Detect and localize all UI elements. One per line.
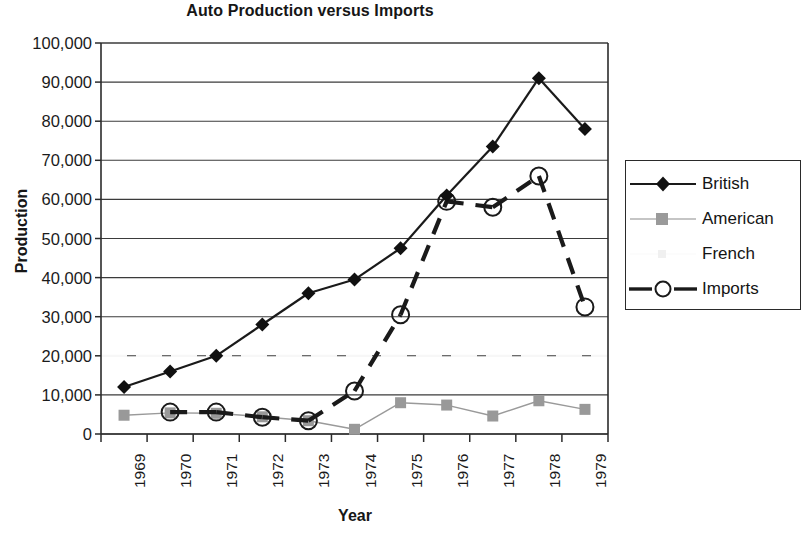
data-point xyxy=(349,424,360,435)
chart-legend: British American French xyxy=(625,160,801,310)
chart-container: Auto Production versus Imports Productio… xyxy=(0,0,809,535)
series-segment xyxy=(124,413,170,415)
series-segment xyxy=(539,401,585,410)
series-american xyxy=(119,395,591,435)
series-segment xyxy=(170,356,216,372)
series-segment xyxy=(355,315,401,391)
series-segment xyxy=(493,401,539,416)
data-point xyxy=(119,410,130,421)
data-point xyxy=(209,349,223,363)
legend-item-imports: Imports xyxy=(626,272,800,306)
data-point xyxy=(301,286,315,300)
series-segment xyxy=(401,403,447,405)
legend-key-british xyxy=(626,169,700,199)
data-point xyxy=(487,411,498,422)
legend-key-american xyxy=(626,204,700,234)
series-segment xyxy=(355,248,401,279)
series-segment xyxy=(308,280,354,294)
series-segment xyxy=(124,371,170,387)
legend-key-french xyxy=(626,239,700,269)
data-point xyxy=(441,400,452,411)
series-imports xyxy=(162,167,594,429)
data-point xyxy=(348,273,362,287)
data-point xyxy=(255,318,269,332)
data-point xyxy=(163,364,177,378)
series-segment xyxy=(493,78,539,146)
data-point xyxy=(395,397,406,408)
legend-label-imports: Imports xyxy=(702,279,759,299)
series-segment xyxy=(447,405,493,416)
legend-key-imports xyxy=(626,274,700,304)
legend-label-american: American xyxy=(702,209,774,229)
series-segment xyxy=(216,325,262,356)
data-point xyxy=(533,395,544,406)
legend-item-american: American xyxy=(626,202,800,236)
series-british xyxy=(117,71,592,394)
series-segment xyxy=(262,293,308,324)
series-segment xyxy=(401,201,447,314)
legend-item-french: French xyxy=(626,237,800,271)
legend-label-french: French xyxy=(702,244,755,264)
series-segment xyxy=(539,176,585,307)
series-segment xyxy=(355,403,401,430)
legend-label-british: British xyxy=(702,174,749,194)
series-segment xyxy=(447,147,493,196)
legend-item-british: British xyxy=(626,167,800,201)
data-point xyxy=(579,404,590,415)
data-point xyxy=(117,380,131,394)
